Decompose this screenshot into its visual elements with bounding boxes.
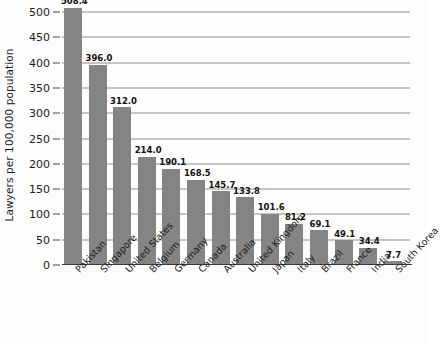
bar[interactable]: 214.0 [138,12,156,265]
y-axis-tick-label: 50 [36,233,50,246]
bar-value-label: 34.4 [359,236,380,246]
bar-value-label: 508.4 [61,0,88,6]
bar[interactable]: 396.0 [89,12,107,265]
bar-rect [64,8,82,265]
bar-value-label: 214.0 [135,145,162,155]
bar[interactable]: 145.7 [212,12,230,265]
y-axis-tick-mark [53,113,60,114]
y-axis-tick-labels: 050100150200250300350400450500 [18,0,52,265]
bar[interactable]: 49.1 [335,12,353,265]
bar[interactable]: 101.6 [261,12,279,265]
bar[interactable]: 34.4 [359,12,377,265]
bar-value-label: 133.8 [233,186,260,196]
y-axis-tick-mark [53,87,60,88]
bar-value-label: 101.6 [258,202,285,212]
y-axis-tick-mark [53,214,60,215]
y-axis-tick-label: 150 [29,183,50,196]
bars: 508.4396.0312.0214.0190.1168.5145.7133.8… [62,12,410,265]
y-axis-tick-mark [53,37,60,38]
y-axis-tick-mark [53,265,60,266]
bar-value-label: 168.5 [184,168,211,178]
y-axis-tick-label: 400 [29,56,50,69]
x-axis-tick-labels: PakistanSingaporeUnited StatesBelgiumGer… [62,267,422,344]
y-axis-tick-mark [53,239,60,240]
y-axis-tick-label: 0 [43,259,50,272]
y-axis-tick-label: 100 [29,208,50,221]
bar[interactable]: 7.7 [384,12,402,265]
y-axis-tick-mark [53,189,60,190]
bar-value-label: 190.1 [159,157,186,167]
y-axis-tick-label: 250 [29,132,50,145]
bar-value-label: 312.0 [110,96,137,106]
y-axis-tick-label: 450 [29,31,50,44]
y-axis-tick-mark [53,138,60,139]
y-axis-title: Lawyers per 100,000 population [0,0,18,270]
y-axis-title-text: Lawyers per 100,000 population [3,48,15,221]
bar-rect [89,65,107,265]
y-axis-tick-mark [53,62,60,63]
y-axis-tick-label: 200 [29,157,50,170]
bar-value-label: 69.1 [310,219,331,229]
y-axis-tick-label: 300 [29,107,50,120]
y-axis-tick-mark [53,12,60,13]
bar[interactable]: 312.0 [113,12,131,265]
y-axis-tick-mark [53,163,60,164]
y-axis-tick-label: 350 [29,81,50,94]
plot-area: 508.4396.0312.0214.0190.1168.5145.7133.8… [62,12,410,265]
bar[interactable]: 168.5 [187,12,205,265]
y-axis-tick-label: 500 [29,6,50,19]
bar[interactable]: 69.1 [310,12,328,265]
bar-value-label: 145.7 [208,180,235,190]
bar[interactable]: 508.4 [64,12,82,265]
bar[interactable]: 133.8 [236,12,254,265]
bar-value-label: 396.0 [85,53,112,63]
bar-value-label: 49.1 [334,229,355,239]
